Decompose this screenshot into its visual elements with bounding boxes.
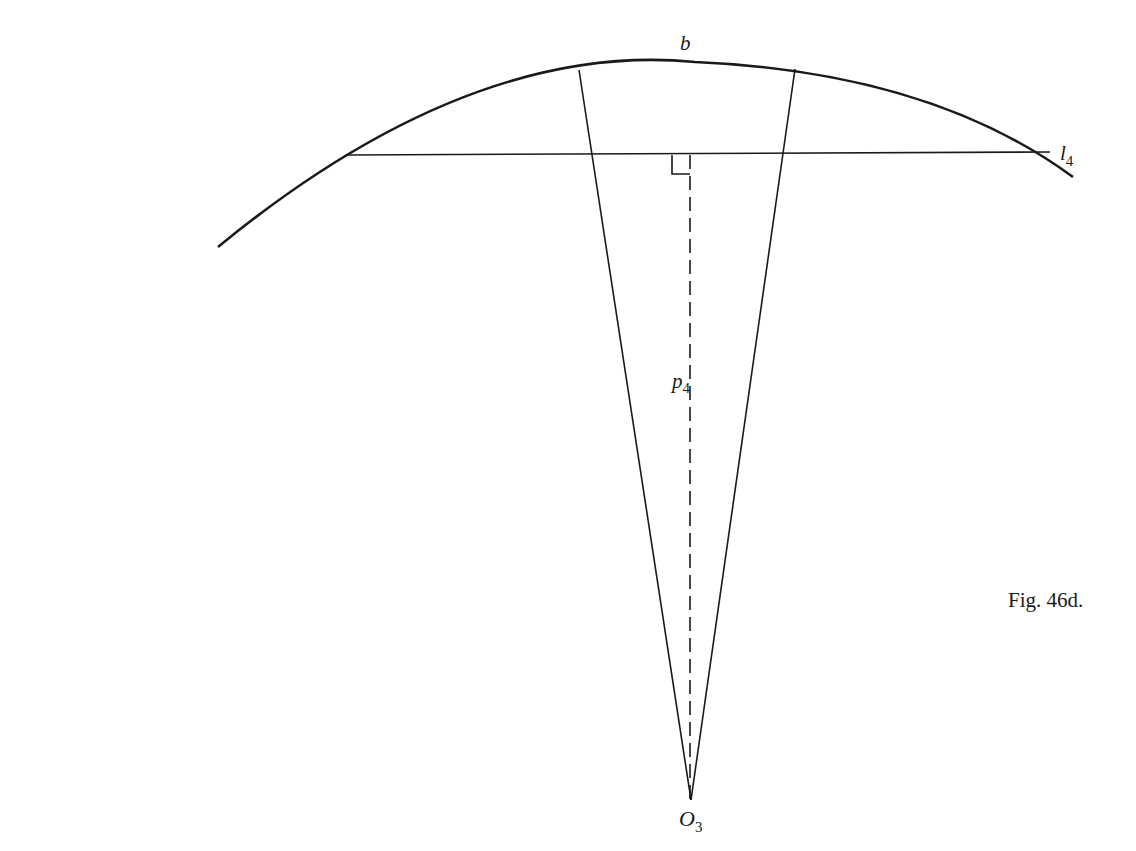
- radius-right: [691, 69, 795, 800]
- label-b: b: [680, 31, 691, 55]
- line-l4: [345, 152, 1050, 155]
- label-l4: l4: [1060, 141, 1074, 169]
- figure-caption: Fig. 46d.: [1008, 588, 1083, 612]
- label-p4: p4: [670, 369, 691, 396]
- label-o3: O3: [679, 806, 702, 835]
- figure-canvas: b l4 p4 O3 Fig. 46d.: [0, 0, 1136, 851]
- radius-left: [579, 70, 691, 800]
- right-angle-marker: [672, 155, 690, 174]
